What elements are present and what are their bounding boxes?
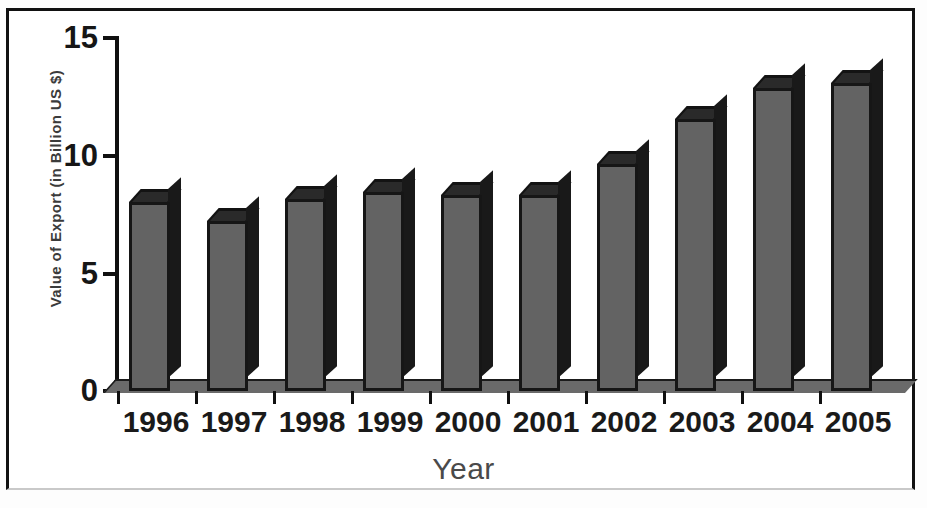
y-axis-tick-5: [103, 272, 119, 276]
y-axis-label-15-wrap: 15: [46, 22, 98, 54]
bar-1999-front-face: [363, 192, 404, 391]
y-axis-tick-15: [103, 36, 119, 40]
bar-1997-front-face: [207, 221, 248, 391]
x-axis-tick-1998: [273, 391, 276, 404]
bar-2004-front-face: [753, 88, 794, 391]
y-axis-label-5: 5: [52, 258, 98, 289]
x-axis-label-1998: 1998: [269, 406, 355, 438]
x-axis-title: Year: [0, 452, 927, 486]
bar-2003: [675, 119, 716, 391]
y-axis-label-10: 10: [52, 140, 98, 171]
y-axis-line: [115, 36, 119, 393]
x-axis-label-2005: 2005: [815, 406, 901, 438]
x-axis-label-1997: 1997: [191, 406, 277, 438]
x-axis-tick-2004: [741, 391, 744, 404]
bar-1997: [207, 221, 248, 391]
bar-1996: [129, 202, 170, 391]
bar-2005: [831, 83, 872, 391]
y-axis-label-5-wrap: 5: [46, 258, 98, 290]
x-axis-tick-2001: [507, 391, 510, 404]
bar-2003-front-face: [675, 119, 716, 391]
chart-plot-area: Value of Export (in Billion US $) 15 10 …: [0, 0, 927, 508]
bar-2000: [441, 195, 482, 391]
bar-1998: [285, 199, 326, 391]
bar-2000-front-face: [441, 195, 482, 391]
x-axis-label-2000: 2000: [425, 406, 511, 438]
x-axis-tick-2005: [819, 391, 822, 404]
x-axis-label-1996: 1996: [113, 406, 199, 438]
x-axis-tick-1999: [351, 391, 354, 404]
x-axis-tick-2000: [429, 391, 432, 404]
bar-2005-front-face: [831, 83, 872, 391]
y-axis-label-15: 15: [52, 22, 98, 53]
y-axis-label-10-wrap: 10: [46, 140, 98, 172]
bar-2001-front-face: [519, 195, 560, 391]
chart-screenshot: Value of Export (in Billion US $) 15 10 …: [0, 0, 927, 508]
y-axis-label-0: 0: [52, 375, 98, 406]
x-axis-label-1999: 1999: [347, 406, 433, 438]
x-axis-label-2002: 2002: [581, 406, 667, 438]
y-axis-tick-10: [103, 154, 119, 158]
bar-2002: [597, 164, 638, 391]
x-axis-tick-1997: [195, 391, 198, 404]
bar-2004: [753, 88, 794, 391]
x-axis-label-2003: 2003: [659, 406, 745, 438]
x-axis-label-2001: 2001: [503, 406, 589, 438]
x-axis-tick-1996: [117, 391, 120, 404]
x-axis-label-2004: 2004: [737, 406, 823, 438]
bar-1998-front-face: [285, 199, 326, 391]
bar-1999: [363, 192, 404, 391]
x-axis-tick-2002: [585, 391, 588, 404]
bar-2001: [519, 195, 560, 391]
bar-2002-front-face: [597, 164, 638, 391]
bar-1996-front-face: [129, 202, 170, 391]
x-axis-tick-2003: [663, 391, 666, 404]
y-axis-label-0-wrap: 0: [46, 375, 98, 407]
y-axis-title: Value of Export (in Billion US $): [47, 24, 64, 354]
